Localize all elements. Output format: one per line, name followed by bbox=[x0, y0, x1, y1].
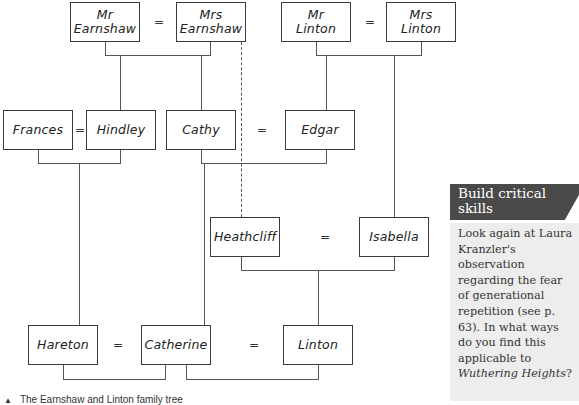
connector-line bbox=[241, 257, 242, 271]
marriage-symbol: = bbox=[365, 16, 375, 28]
person-name: Hindley bbox=[97, 123, 146, 137]
book-title: Wuthering Heights bbox=[458, 367, 566, 380]
connector-line bbox=[38, 150, 39, 164]
person-box-frances: Frances bbox=[3, 110, 73, 150]
connector-line bbox=[186, 379, 319, 380]
person-name: Linton bbox=[298, 338, 338, 352]
connector-line bbox=[316, 55, 422, 56]
caption-triangle-icon: ▲ bbox=[4, 396, 12, 405]
connector-line bbox=[326, 55, 327, 110]
marriage-symbol: = bbox=[75, 124, 85, 136]
panel-title: Build critical skills bbox=[450, 184, 579, 220]
person-box-cathy: Cathy bbox=[166, 110, 236, 150]
person-name: Mrs Earnshaw bbox=[180, 8, 243, 36]
connector-line bbox=[318, 365, 319, 380]
panel-body: Look again at Laura Kranzler's observati… bbox=[450, 223, 579, 401]
panel-body-text: Look again at Laura Kranzler's observati… bbox=[458, 227, 572, 365]
person-name: Hareton bbox=[37, 338, 89, 352]
connector-line bbox=[105, 42, 106, 56]
person-box-mrs-earnshaw: Mrs Earnshaw bbox=[176, 2, 246, 42]
connector-line bbox=[210, 42, 211, 56]
person-box-mr-linton: Mr Linton bbox=[281, 2, 351, 42]
panel-body-end: ? bbox=[566, 367, 572, 380]
connector-line bbox=[186, 365, 187, 380]
connector-line bbox=[316, 42, 317, 56]
marriage-symbol: = bbox=[113, 339, 123, 351]
caption-text: The Earnshaw and Linton family tree bbox=[20, 394, 183, 405]
figure-caption: ▲The Earnshaw and Linton family tree bbox=[4, 394, 183, 405]
marriage-symbol: = bbox=[257, 124, 267, 136]
person-box-mr-earnshaw: Mr Earnshaw bbox=[70, 2, 140, 42]
connector-line bbox=[201, 150, 202, 164]
connector-line bbox=[120, 150, 121, 164]
connector-line bbox=[394, 257, 395, 271]
person-name: Cathy bbox=[182, 123, 220, 137]
person-name: Mrs Linton bbox=[401, 8, 441, 36]
connector-line bbox=[120, 55, 121, 110]
connector-line bbox=[165, 365, 166, 380]
person-box-linton: Linton bbox=[283, 325, 353, 365]
connector-line bbox=[318, 270, 319, 325]
connector-line bbox=[204, 163, 205, 325]
person-name: Edgar bbox=[301, 123, 339, 137]
person-name: Isabella bbox=[369, 230, 419, 244]
person-name: Catherine bbox=[145, 338, 208, 352]
person-box-heathcliff: Heathcliff bbox=[210, 217, 280, 257]
connector-line bbox=[201, 163, 327, 164]
person-box-hareton: Hareton bbox=[28, 325, 98, 365]
connector-line bbox=[201, 55, 202, 110]
person-name: Heathcliff bbox=[214, 230, 276, 244]
person-box-hindley: Hindley bbox=[86, 110, 156, 150]
person-name: Mr Earnshaw bbox=[74, 8, 137, 36]
connector-line bbox=[421, 42, 422, 56]
connector-line bbox=[394, 55, 395, 217]
person-name: Mr Linton bbox=[296, 8, 336, 36]
person-box-edgar: Edgar bbox=[285, 110, 355, 150]
connector-line bbox=[79, 163, 80, 325]
marriage-symbol: = bbox=[249, 339, 259, 351]
connector-line bbox=[63, 379, 166, 380]
person-name: Frances bbox=[13, 123, 63, 137]
connector-line bbox=[63, 365, 64, 380]
marriage-symbol: = bbox=[320, 231, 330, 243]
marriage-symbol: = bbox=[154, 16, 164, 28]
family-tree-diagram: Mr Earnshaw = Mrs Earnshaw Mr Linton = M… bbox=[0, 0, 450, 401]
connector-line bbox=[326, 150, 327, 164]
person-box-isabella: Isabella bbox=[359, 217, 429, 257]
person-box-mrs-linton: Mrs Linton bbox=[386, 2, 456, 42]
adoption-dashed-line bbox=[241, 42, 242, 217]
person-box-catherine: Catherine bbox=[141, 325, 211, 365]
build-critical-skills-panel: Build critical skills Look again at Laur… bbox=[450, 184, 579, 401]
